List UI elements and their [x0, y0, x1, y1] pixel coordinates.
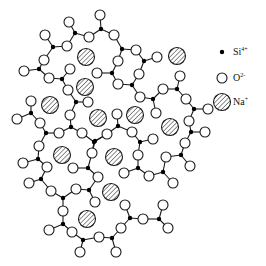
si-ion — [136, 166, 140, 170]
o-ion — [116, 223, 126, 233]
o-ion — [113, 56, 123, 66]
si-ion — [161, 170, 165, 174]
o-ion — [152, 52, 162, 62]
legend-si-charge: 4+ — [241, 46, 247, 52]
na-ion — [79, 211, 96, 228]
na-ion — [103, 184, 120, 201]
na-ion — [78, 49, 95, 66]
si-ion — [120, 47, 124, 51]
o-ion — [184, 116, 194, 126]
o-ion — [131, 45, 141, 55]
o-ion — [44, 225, 54, 235]
na-ion — [169, 48, 186, 65]
legend-o-icon — [217, 73, 227, 83]
o-ion — [19, 66, 29, 76]
o-ion — [185, 161, 195, 171]
o-ion — [62, 41, 72, 51]
si-ion — [110, 236, 114, 240]
legend-o-charge: 2- — [240, 72, 245, 78]
o-ion — [39, 55, 49, 65]
o-ion — [71, 184, 81, 194]
o-ion — [12, 114, 22, 124]
na-ion — [42, 97, 59, 114]
legend-na-symbol: Na — [233, 96, 245, 107]
o-ion — [151, 108, 161, 118]
o-ion — [65, 64, 75, 74]
o-ion — [112, 109, 122, 119]
o-ion — [133, 150, 143, 160]
o-ion — [24, 178, 34, 188]
si-ion — [116, 124, 120, 128]
si-ion — [130, 83, 134, 87]
o-ion — [120, 200, 130, 210]
o-ion — [127, 127, 137, 137]
na-ion — [127, 107, 144, 124]
si-ion — [151, 97, 155, 101]
o-ion — [113, 79, 123, 89]
si-ion — [157, 217, 161, 221]
o-ion — [68, 163, 78, 173]
o-ion — [54, 128, 64, 138]
si-ion — [29, 111, 33, 115]
o-ion — [111, 247, 121, 257]
si-ion — [73, 31, 77, 35]
o-ion — [58, 206, 68, 216]
o-ion — [40, 30, 50, 40]
na-ion — [162, 119, 179, 136]
o-ion — [63, 85, 73, 95]
o-ion — [158, 84, 168, 94]
o-ion — [83, 97, 93, 107]
si-ion — [74, 100, 78, 104]
legend-na-label: Na+ — [233, 96, 248, 107]
si-ion — [192, 107, 196, 111]
na-ion — [77, 79, 94, 96]
si-ion — [44, 131, 48, 135]
o-ion — [65, 110, 75, 120]
o-ion — [77, 128, 87, 138]
si-ion — [99, 27, 103, 31]
na-ion — [106, 149, 123, 166]
o-ion — [34, 141, 44, 151]
legend-si-label: Si4+ — [233, 46, 248, 57]
o-ion — [92, 68, 102, 78]
o-ion — [42, 162, 52, 172]
si-ion — [86, 166, 90, 170]
o-ion — [163, 223, 173, 233]
si-ion — [179, 153, 183, 157]
legend-si-icon — [220, 50, 224, 54]
legend-na-charge: + — [245, 96, 248, 102]
si-ion — [93, 139, 97, 143]
o-ion — [181, 94, 191, 104]
o-ion — [95, 10, 105, 20]
o-ion — [135, 92, 145, 102]
o-ion — [138, 214, 148, 224]
si-ion — [51, 45, 55, 49]
si-ion — [69, 125, 73, 129]
oxygen-ions — [12, 10, 213, 257]
o-ion — [200, 127, 210, 137]
o-ion — [203, 104, 213, 114]
o-ion — [144, 171, 154, 181]
legend-na-icon — [214, 94, 231, 111]
o-ion — [158, 200, 168, 210]
si-ion — [142, 59, 146, 63]
legend-o-label: O2- — [233, 72, 245, 83]
o-ion — [18, 158, 28, 168]
si-ion — [61, 196, 65, 200]
si-ion — [37, 67, 41, 71]
o-ion — [90, 197, 100, 207]
si-ion — [87, 188, 91, 192]
si-ion — [61, 222, 65, 226]
o-ion — [26, 96, 36, 106]
si-ion — [81, 238, 85, 242]
o-ion — [119, 168, 129, 178]
o-ion — [87, 148, 97, 158]
o-ion — [35, 118, 45, 128]
na-ion — [54, 147, 71, 164]
si-ion — [189, 130, 193, 134]
o-ion — [168, 178, 178, 188]
o-ion — [67, 227, 77, 237]
o-ion — [180, 138, 190, 148]
si-ion — [36, 157, 40, 161]
si-ion — [175, 87, 179, 91]
